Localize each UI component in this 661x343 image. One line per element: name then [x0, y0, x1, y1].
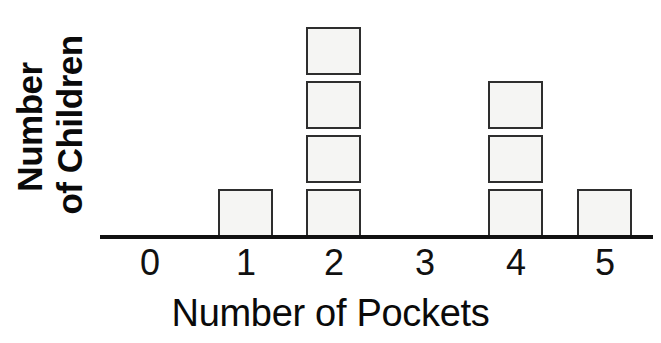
x-axis-line [100, 235, 653, 239]
x-tick-label-3: 3 [395, 245, 455, 281]
x-tick-label-5: 5 [575, 245, 635, 281]
block-column-4 [488, 81, 543, 237]
plot-area [0, 0, 661, 237]
x-axis-tick-labels: 012345 [0, 245, 661, 287]
block-column-2 [306, 27, 361, 237]
x-tick-label-4: 4 [486, 245, 546, 281]
unit-block [306, 189, 361, 237]
unit-block [306, 81, 361, 129]
unit-block [218, 189, 273, 237]
x-tick-label-0: 0 [120, 245, 180, 281]
block-column-1 [218, 189, 273, 237]
x-tick-label-1: 1 [216, 245, 276, 281]
unit-block [577, 189, 632, 237]
pictograph-chart: Number of Children 012345 Number of Pock… [0, 0, 661, 343]
unit-block [488, 135, 543, 183]
unit-block [306, 27, 361, 75]
unit-block [488, 189, 543, 237]
unit-block [306, 135, 361, 183]
x-axis-label: Number of Pockets [0, 294, 661, 332]
unit-block [488, 81, 543, 129]
block-column-5 [577, 189, 632, 237]
x-tick-label-2: 2 [304, 245, 364, 281]
